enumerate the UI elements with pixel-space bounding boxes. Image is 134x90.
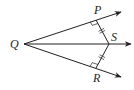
label-S: S [111, 30, 117, 44]
label-P: P [93, 3, 102, 17]
label-R: R [92, 71, 101, 85]
angle-bisector-diagram: Q P S R [0, 0, 134, 90]
label-Q: Q [10, 37, 19, 51]
